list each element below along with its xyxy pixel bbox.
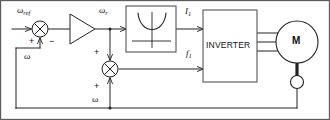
- label-current-command: I1: [185, 7, 191, 16]
- tachometer-symbol: [291, 76, 304, 89]
- sign-speed-summer-plus: +: [29, 37, 34, 46]
- block-diagram-canvas: ωref + − ω ωr + + ω I1 f1 INVERTER M: [0, 0, 330, 120]
- branch-dot-slip: [109, 28, 112, 31]
- sign-frequency-summer-plus-top: +: [94, 48, 99, 57]
- label-slip-speed: ωr: [99, 6, 108, 15]
- sign-frequency-summer-plus-bottom: +: [94, 82, 99, 91]
- motor-label: M: [292, 36, 300, 46]
- gain-amplifier: [70, 14, 95, 44]
- current-function-block: [126, 6, 176, 52]
- inverter-block-label: INVERTER: [206, 41, 250, 50]
- label-speed-reference: ωref: [17, 6, 30, 15]
- diagram-vector-layer: [0, 0, 330, 120]
- speed-error-summer: [32, 21, 48, 37]
- frequency-summer: [102, 61, 118, 77]
- label-feedback-speed-outer: ω: [24, 52, 30, 61]
- label-frequency-command: f1: [186, 49, 192, 58]
- branch-dot-feedback: [109, 107, 112, 110]
- sign-speed-summer-minus: −: [49, 37, 54, 46]
- label-feedback-speed-inner: ω: [92, 95, 98, 104]
